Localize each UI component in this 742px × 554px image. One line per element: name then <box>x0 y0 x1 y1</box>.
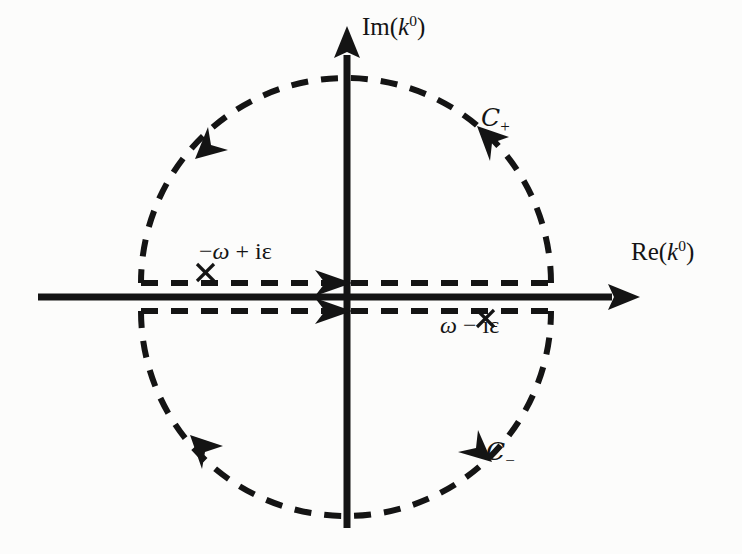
real-axis <box>38 284 640 310</box>
pole-lower-right-label: ω − iε <box>440 312 499 339</box>
real-axis-arrowhead <box>608 284 640 310</box>
real-axis-label: Re(k0) <box>631 237 694 266</box>
c-plus-arrowheads <box>195 126 509 296</box>
imaginary-axis-arrowhead <box>334 26 360 58</box>
imaginary-axis <box>334 26 360 528</box>
contour-c-plus-label: C+ <box>481 103 510 137</box>
figure-canvas <box>0 0 742 554</box>
imaginary-axis-label: Im(k0) <box>362 12 425 41</box>
pole-upper-left-label: −ω + iε <box>199 238 272 265</box>
contour-integration-figure: Im(k0) Re(k0) −ω + iε ω − iε C+ C− <box>0 0 742 554</box>
pole-upper-left-cross-icon <box>197 264 214 281</box>
contour-c-minus-label: C− <box>486 437 515 471</box>
